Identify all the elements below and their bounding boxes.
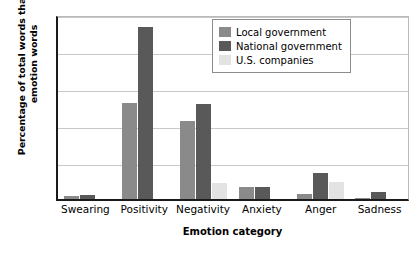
x-tick-label: Swearing (56, 203, 115, 215)
legend-swatch-icon (219, 55, 231, 65)
x-tick-label: Positivity (115, 203, 174, 215)
bar (80, 195, 95, 199)
bar (64, 196, 79, 199)
legend-label: National government (236, 41, 342, 52)
bar (371, 192, 386, 199)
bar (313, 173, 328, 199)
bar-group (58, 17, 116, 199)
x-tick-label: Negativity (174, 203, 233, 215)
bar (180, 121, 195, 199)
bar (255, 187, 270, 199)
x-axis-title: Emotion category (56, 226, 409, 237)
x-tick-label: Anger (291, 203, 350, 215)
legend-label: Local government (236, 27, 326, 38)
bar (196, 104, 211, 199)
x-axis-ticks: SwearingPositivityNegativityAnxietyAnger… (56, 203, 409, 215)
x-tick-label: Sadness (350, 203, 409, 215)
legend-swatch-icon (219, 41, 231, 51)
bar-group (116, 17, 174, 199)
legend-item: U.S. companies (219, 53, 342, 67)
legend-swatch-icon (219, 27, 231, 37)
legend-item: Local government (219, 25, 342, 39)
bar-chart: Percentage of total words that are emoti… (0, 0, 420, 254)
x-tick-label: Anxiety (232, 203, 291, 215)
legend-label: U.S. companies (236, 55, 314, 66)
y-axis-title: Percentage of total words that are emoti… (16, 0, 40, 164)
bar (297, 194, 312, 199)
legend: Local governmentNational governmentU.S. … (212, 19, 351, 73)
bar (355, 198, 370, 199)
bar (329, 182, 344, 199)
bar (212, 183, 227, 199)
bar (122, 103, 137, 199)
bar (239, 187, 254, 199)
bar-group (350, 17, 408, 199)
legend-item: National government (219, 39, 342, 53)
bar (138, 27, 153, 199)
